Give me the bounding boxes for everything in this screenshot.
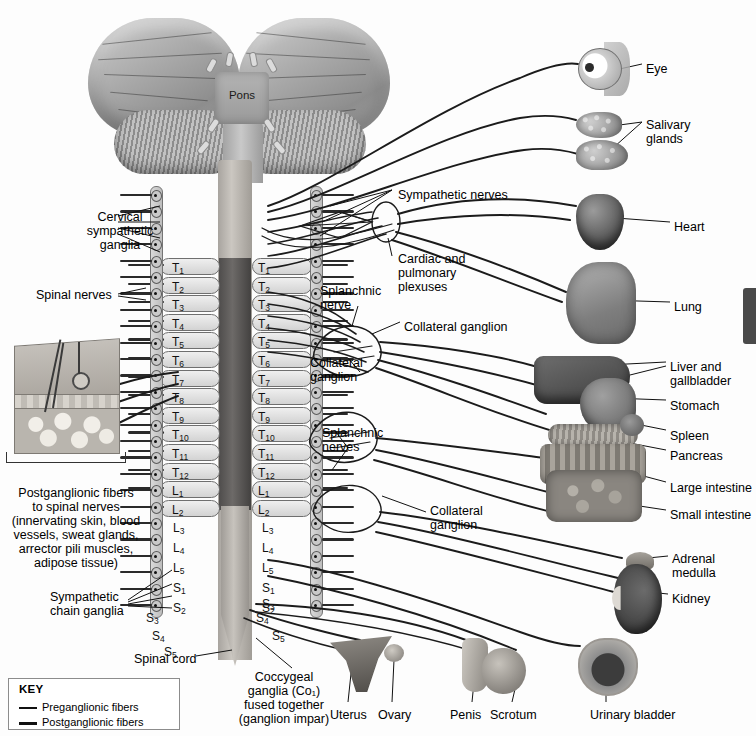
ganglion-marker	[154, 424, 157, 427]
adipose-tissue-layer	[14, 408, 120, 454]
ramus-communicans	[322, 456, 354, 458]
ramus-communicans	[322, 506, 354, 508]
ramus-communicans	[322, 227, 354, 229]
segment-label-right-T6: T6	[258, 355, 270, 368]
sweat-duct-icon	[78, 342, 80, 374]
salivary-gland-upper	[576, 112, 622, 138]
ganglion-marker	[154, 391, 157, 394]
ramus-communicans	[120, 473, 152, 475]
label-collateral-ganglion-low: Collateral ganglion	[430, 504, 483, 532]
label-stomach: Stomach	[670, 399, 719, 413]
ganglion-marker	[314, 309, 317, 312]
ganglion-marker	[154, 309, 157, 312]
ganglion-marker	[314, 440, 317, 443]
vertebral-body	[160, 500, 220, 517]
ramus-communicans	[322, 243, 354, 245]
vertebral-body	[160, 277, 220, 294]
ganglion-marker	[314, 342, 317, 345]
label-splanchnic-nerves: Splanchnic nerves	[322, 426, 383, 454]
key-item-postganglionic: Postganglionic fibers	[19, 716, 144, 728]
vertebral-body	[160, 444, 220, 461]
label-large-intestine: Large intestine	[670, 481, 752, 495]
segment-label-right-T11: T11	[258, 448, 274, 461]
vertebral-body	[160, 388, 220, 405]
segment-label-right-L4: L4	[262, 542, 273, 555]
key-item-label: Preganglionic fibers	[42, 701, 139, 713]
ramus-communicans	[322, 588, 354, 590]
spleen-organ	[620, 414, 644, 436]
segment-label-right-T9: T9	[258, 411, 270, 424]
ganglion-marker	[314, 522, 317, 525]
postganglionic-line-swatch	[19, 722, 37, 725]
segment-label-left-T7: T7	[172, 374, 184, 387]
label-spleen: Spleen	[670, 429, 709, 443]
segment-label-left-T10: T10	[172, 429, 189, 442]
ganglion-marker	[154, 342, 157, 345]
ganglion-marker	[154, 555, 157, 558]
segment-label-right-T8: T8	[258, 392, 270, 405]
label-pancreas: Pancreas	[670, 449, 723, 463]
ganglion-marker	[314, 227, 317, 230]
label-liver-and-gallbladder: Liver and gallbladder	[670, 360, 731, 388]
ganglion-marker	[314, 588, 317, 591]
ramus-communicans	[322, 473, 354, 475]
kidney-organ	[614, 564, 662, 634]
ramus-communicans	[322, 325, 354, 327]
skin-inset-illustration	[6, 336, 126, 456]
key-item-label: Postganglionic fibers	[42, 716, 144, 728]
ramus-communicans	[322, 489, 354, 491]
ramus-communicans	[322, 391, 354, 393]
segment-label-right-L3: L3	[262, 522, 273, 535]
key-title: KEY	[19, 683, 44, 695]
vertebral-body	[160, 407, 220, 424]
label-penis: Penis	[450, 708, 481, 722]
key-legend: KEY Preganglionic fibers Postganglionic …	[8, 678, 180, 730]
ganglion-marker	[154, 522, 157, 525]
ganglion-marker	[154, 440, 157, 443]
ramus-communicans	[322, 342, 354, 344]
vertebral-body	[160, 370, 220, 387]
ganglion-marker	[154, 260, 157, 263]
ramus-communicans	[322, 276, 354, 278]
scrotum-organ	[482, 648, 526, 694]
segment-label-right-T3: T3	[258, 299, 270, 312]
segment-label-right-L2: L2	[258, 504, 269, 517]
segment-label-left-L5: L5	[173, 562, 184, 575]
vertebral-body	[160, 258, 220, 275]
label-salivary-glands: Salivary glands	[646, 118, 690, 146]
label-spinal-nerves: Spinal nerves	[36, 288, 112, 302]
label-eye: Eye	[646, 62, 668, 76]
label-postganglionic-fibers: Postganglionic fibers to spinal nerves (…	[8, 486, 144, 570]
ramus-communicans	[120, 588, 152, 590]
label-heart: Heart	[674, 220, 705, 234]
small-intestine-organ	[546, 470, 642, 522]
ramus-communicans	[322, 210, 354, 212]
ramus-communicans	[120, 276, 152, 278]
label-collateral-ganglion-mid: Collateral ganglion	[310, 356, 363, 384]
ramus-communicans	[120, 194, 152, 196]
segment-label-left-S3: S3	[146, 612, 159, 625]
ganglion-marker	[314, 260, 317, 263]
ganglion-marker	[314, 604, 317, 607]
segment-label-left-T11: T11	[172, 448, 188, 461]
segment-label-right-S5: S5	[272, 630, 285, 643]
ganglion-marker	[154, 194, 157, 197]
ramus-communicans	[120, 260, 152, 262]
preganglionic-line-swatch	[19, 707, 37, 708]
anatomy-figure: Pons	[0, 0, 756, 736]
label-collateral-ganglion-top: Collateral ganglion	[404, 320, 508, 334]
segment-label-left-S4: S4	[152, 630, 165, 643]
segment-label-left-T8: T8	[172, 392, 184, 405]
ramus-communicans	[322, 604, 354, 606]
ganglion-marker	[314, 424, 317, 427]
segment-label-right-T10: T10	[258, 429, 275, 442]
ganglion-marker	[314, 391, 317, 394]
ganglion-marker	[314, 555, 317, 558]
segment-label-right-T7: T7	[258, 374, 270, 387]
segment-label-right-S4: S4	[256, 612, 269, 625]
label-adrenal-medulla: Adrenal medulla	[672, 552, 716, 580]
segment-label-right-T2: T2	[258, 281, 270, 294]
ganglion-marker	[154, 473, 157, 476]
segment-label-left-L2: L2	[172, 504, 183, 517]
segment-label-left-L4: L4	[173, 542, 184, 555]
